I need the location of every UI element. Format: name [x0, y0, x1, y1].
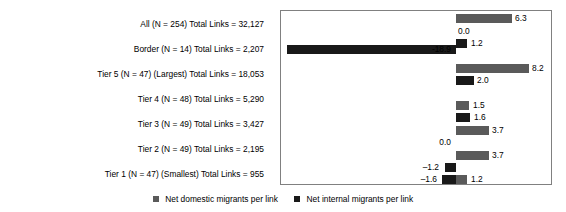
bar-internal — [456, 113, 470, 122]
bar-domestic — [456, 151, 489, 160]
bar-domestic — [456, 64, 529, 73]
category-label: Tier 1 (N = 47) (Smallest) Total Links =… — [0, 169, 264, 179]
legend-label: Net internal migrants per link — [307, 194, 414, 204]
bar-value-label: 1.2 — [471, 39, 483, 48]
category-label: Tier 4 (N = 48) Total Links = 5,290 — [0, 94, 264, 104]
bar-internal — [456, 39, 467, 48]
bar-domestic — [456, 14, 512, 23]
legend-swatch-icon — [153, 196, 159, 202]
bar-value-label: 8.2 — [532, 64, 544, 73]
bar-internal — [456, 76, 474, 85]
chart-legend: Net domestic migrants per link Net inter… — [0, 192, 566, 205]
bar-internal-tier1-neg — [442, 175, 456, 184]
category-label: Tier 5 (N = 47) (Largest) Total Links = … — [0, 69, 264, 79]
bar-internal — [287, 45, 456, 54]
bar-value-label: 6.3 — [515, 14, 527, 23]
bar-value-label: 2.0 — [477, 76, 489, 85]
bar-value-label: 1.2 — [471, 175, 483, 184]
bar-value-label: 1.5 — [473, 101, 485, 110]
legend-entry-internal: Net internal migrants per link — [294, 192, 413, 205]
bar-value-label: 0.0 — [439, 138, 451, 147]
legend-entry-domestic: Net domestic migrants per link — [153, 192, 278, 205]
legend-swatch-icon — [294, 196, 300, 202]
bar-domestic — [456, 126, 489, 135]
bar-value-label: 3.7 — [492, 151, 504, 160]
bar-internal — [445, 163, 456, 172]
bar-value-label: –1.6 — [421, 175, 437, 184]
bar-value-label: 1.6 — [474, 113, 486, 122]
category-label: All (N = 254) Total Links = 32,127 — [0, 19, 264, 29]
category-label: Tier 3 (N = 49) Total Links = 3,427 — [0, 119, 264, 129]
category-axis-labels: All (N = 254) Total Links = 32,127 Borde… — [0, 10, 272, 185]
bar-value-label: 3.7 — [492, 126, 504, 135]
bar-domestic-tier1 — [456, 175, 467, 184]
category-label: Tier 2 (N = 49) Total Links = 2,195 — [0, 144, 264, 154]
bar-value-label: 0.0 — [458, 27, 470, 36]
bar-domestic — [456, 101, 469, 110]
category-label: Border (N = 14) Total Links = 2,207 — [0, 44, 264, 54]
plot-inner: 6.3 -18.9 0.0 1.2 8.2 2.0 1.5 1.6 3.7 0.… — [281, 11, 551, 184]
bar-value-label: -18.9 — [432, 45, 451, 54]
legend-label: Net domestic migrants per link — [165, 194, 278, 204]
plot-area: 6.3 -18.9 0.0 1.2 8.2 2.0 1.5 1.6 3.7 0.… — [280, 10, 552, 185]
bar-chart: All (N = 254) Total Links = 32,127 Borde… — [0, 0, 566, 212]
bar-value-label: –1.2 — [423, 163, 439, 172]
